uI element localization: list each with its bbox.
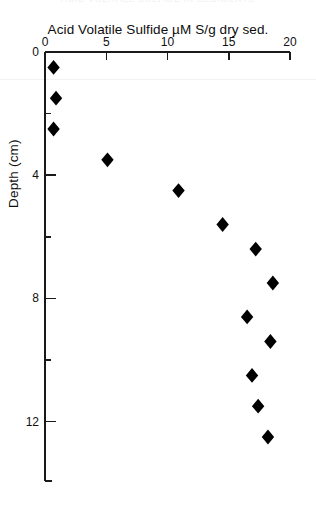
figure-panel: ACID VOLATILE SULFIDE IN SEDIMENTS Acid … [0, 0, 316, 506]
data-point-marker [250, 242, 262, 257]
data-point-marker [47, 122, 59, 137]
data-point-marker [241, 309, 253, 324]
data-point-marker [264, 334, 276, 349]
data-point-series [47, 60, 279, 444]
data-point-marker [50, 91, 62, 106]
data-point-marker [101, 152, 113, 167]
data-point-marker [267, 276, 279, 291]
data-point-marker [246, 368, 258, 383]
data-point-marker [172, 183, 184, 198]
data-point-marker [262, 430, 274, 445]
axis-tick-marks [45, 52, 229, 422]
data-point-marker [47, 60, 59, 75]
data-point-marker [216, 217, 228, 232]
axis-frame [45, 52, 290, 481]
plot-canvas [0, 0, 316, 506]
data-point-marker [252, 399, 264, 414]
